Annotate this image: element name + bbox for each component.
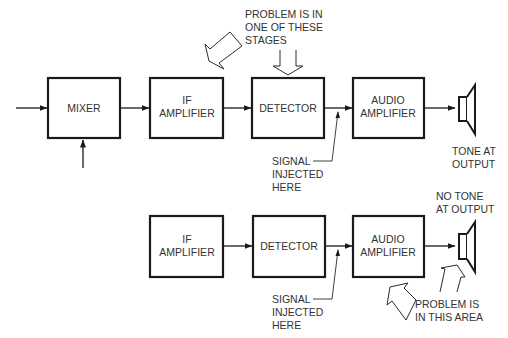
problem-note-line3: STAGES — [245, 34, 287, 46]
signal-note-bottom-line2: INJECTED — [272, 306, 324, 318]
problem-area-line1: PROBLEM IS — [415, 298, 479, 310]
detector-label: DETECTOR — [259, 102, 317, 114]
problem-note-line1: PROBLEM IS IN — [245, 8, 323, 20]
signal-note-bottom-line3: HERE — [272, 319, 301, 331]
problem-note-line2: ONE OF THESE — [245, 21, 323, 33]
speaker-icon — [459, 85, 475, 134]
signal-note-line1: SIGNAL — [272, 155, 311, 167]
tone-at-output-line2: OUTPUT — [452, 158, 496, 170]
signal-injection-arrowhead-bottom — [336, 249, 341, 256]
tone-at-output-line1: TONE AT — [452, 145, 497, 157]
signal-note-bottom-line1: SIGNAL — [272, 293, 311, 305]
detector-block: DETECTOR — [252, 78, 324, 138]
top-signal-chain: MIXER IF AMPLIFIER DETECTOR AUDIO AMPLIF… — [16, 8, 497, 193]
detector-block-bottom: DETECTOR — [253, 216, 325, 277]
problem-area-pointer-audio — [387, 283, 416, 320]
if-amplifier-label-line2: AMPLIFIER — [159, 107, 215, 119]
if-amplifier-block-bottom: IF AMPLIFIER — [150, 216, 223, 277]
audio-amplifier-bottom-label-line1: AUDIO — [371, 233, 404, 245]
troubleshooting-diagram: MIXER IF AMPLIFIER DETECTOR AUDIO AMPLIF… — [0, 0, 508, 338]
detector-bottom-label: DETECTOR — [260, 240, 318, 252]
no-tone-line1: NO TONE — [436, 190, 483, 202]
mixer-label: MIXER — [67, 102, 101, 114]
signal-injection-arrowhead — [336, 111, 341, 118]
audio-amplifier-label-line1: AUDIO — [371, 94, 404, 106]
signal-note-line2: INJECTED — [272, 168, 324, 180]
signal-note-line3: HERE — [272, 181, 301, 193]
mixer-block: MIXER — [48, 78, 120, 138]
audio-amplifier-bottom-label-line2: AMPLIFIER — [360, 246, 416, 258]
bottom-signal-chain: IF AMPLIFIER DETECTOR AUDIO AMPLIFIER NO… — [150, 190, 495, 331]
audio-amplifier-label-line2: AMPLIFIER — [360, 107, 416, 119]
speaker-icon-bottom — [459, 222, 475, 272]
if-amplifier-bottom-label-line1: IF — [182, 233, 191, 245]
if-amplifier-bottom-label-line2: AMPLIFIER — [159, 246, 215, 258]
problem-area-pointer-speaker — [440, 265, 465, 292]
problem-pointer-arrow-down — [273, 50, 303, 75]
problem-area-line2: IN THIS AREA — [415, 311, 483, 323]
if-amplifier-label-line1: IF — [182, 94, 191, 106]
if-amplifier-block: IF AMPLIFIER — [150, 78, 223, 138]
audio-amplifier-block: AUDIO AMPLIFIER — [353, 78, 424, 138]
no-tone-line2: AT OUTPUT — [436, 203, 495, 215]
audio-amplifier-block-bottom: AUDIO AMPLIFIER — [353, 216, 424, 277]
problem-pointer-arrow-diagonal — [205, 32, 242, 69]
